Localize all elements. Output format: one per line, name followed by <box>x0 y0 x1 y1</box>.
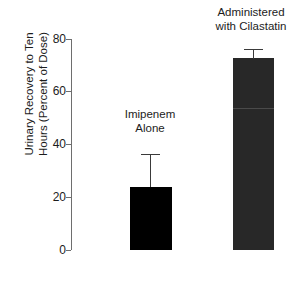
y-tick-80 <box>66 39 71 40</box>
error-bar-cap-imipenem-alone <box>141 154 160 155</box>
y-tick-label-20-wrap: 20 <box>36 191 66 203</box>
error-bar-stem-imipenem-alone <box>150 155 151 187</box>
series-label-administered-with-cilastatin-line2: with Cilastatin <box>205 19 297 33</box>
y-tick-0 <box>66 250 71 251</box>
y-axis-title-line1: Urinary Recovery to Ten <box>22 9 36 179</box>
y-tick-label-0: 0 <box>40 244 66 256</box>
error-bar-stem-administered-with-cilastatin <box>253 50 254 59</box>
series-label-administered-with-cilastatin-line1: Administered <box>205 5 297 19</box>
series-label-imipenem-alone-line1: Imipenem <box>110 107 190 121</box>
series-label-imipenem-alone-line2: Alone <box>110 121 190 135</box>
y-tick-60 <box>66 91 71 92</box>
y-axis-title: Urinary Recovery to Ten Hours (Percent o… <box>22 9 50 179</box>
bar-administered-with-cilastatin <box>233 58 274 250</box>
y-tick-label-20: 20 <box>40 191 66 203</box>
y-tick-label-0-wrap: 0 <box>36 244 66 256</box>
y-tick-20 <box>66 197 71 198</box>
y-axis-title-line2: Hours (Percent of Dose) <box>36 9 50 179</box>
y-tick-40 <box>66 144 71 145</box>
bar-imipenem-alone <box>130 187 172 250</box>
chart-figure: 0 20 40 60 80 Urinary Recovery to Ten Ho… <box>0 0 297 281</box>
bar-scan-artifact-line <box>233 108 274 109</box>
series-label-imipenem-alone: Imipenem Alone <box>110 107 190 136</box>
series-label-administered-with-cilastatin: Administered with Cilastatin <box>205 5 297 34</box>
error-bar-cap-administered-with-cilastatin <box>244 49 263 50</box>
y-axis-spine <box>71 39 72 250</box>
